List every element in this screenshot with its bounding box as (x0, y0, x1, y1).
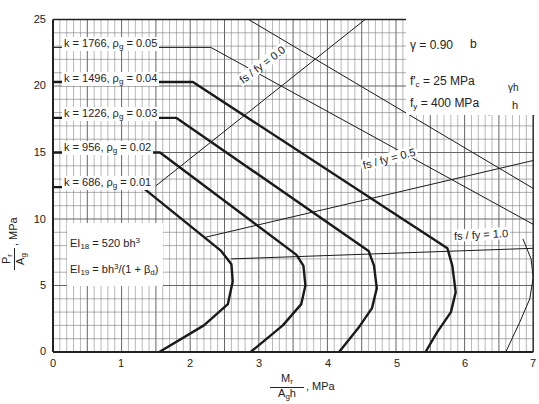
y-label-den-sub: g (19, 253, 28, 257)
x-tick: 6 (455, 357, 475, 369)
ei-text: /(1 + β (119, 263, 151, 275)
rho-text: = 0.04 (123, 72, 157, 84)
rho-text: = 0.02 (117, 141, 151, 153)
curve-label-k686: k = 686, ρg = 0.01 (62, 176, 153, 190)
x-tick: 3 (249, 357, 269, 369)
y-tick: 0 (26, 345, 46, 357)
ei-text: ) (155, 263, 159, 275)
y-label-sub: r (5, 254, 14, 257)
dim-gamma-h-label: γh (508, 82, 519, 93)
x-label-numerator: M (281, 372, 290, 384)
x-tick: 2 (180, 357, 200, 369)
series-line (53, 82, 456, 352)
k-text: k = 1496, ρ (64, 72, 119, 84)
fc-label: f′c = 25 MPa (410, 74, 475, 89)
ei-text: EI (70, 237, 80, 249)
curve-label-k1226: k = 1226, ρg = 0.03 (62, 107, 159, 121)
y-label-unit: , MPa (7, 217, 19, 246)
k-text: k = 686, ρ (64, 176, 113, 188)
curve-label-k1766: k = 1766, ρg = 0.05 (62, 37, 159, 51)
ei-text: = bh (89, 263, 114, 275)
fy-label: fy = 400 MPa (410, 96, 479, 111)
y-tick: 20 (26, 79, 46, 91)
x-label-unit: , MPa (306, 380, 335, 392)
fy-value: = 400 MPa (417, 96, 479, 110)
y-tick: 25 (26, 13, 46, 25)
x-tick: 0 (43, 357, 63, 369)
curve-label-k1496: k = 1496, ρg = 0.04 (62, 72, 159, 86)
rho-text: = 0.05 (123, 37, 157, 49)
y-label-numerator: P (0, 257, 12, 264)
series-line (156, 20, 365, 186)
y-tick: 15 (26, 146, 46, 158)
dim-b-label: b (470, 37, 477, 51)
x-tick: 7 (523, 357, 539, 369)
ei-sub: 18 (80, 242, 89, 251)
dim-h-label: h (512, 99, 518, 111)
x-tick: 1 (111, 357, 131, 369)
ei18-formula: EI18 = 520 bh3 (70, 236, 140, 251)
curve-label-k956: k = 956, ρg = 0.02 (62, 141, 153, 155)
x-tick: 4 (318, 357, 338, 369)
k-text: k = 956, ρ (64, 141, 113, 153)
y-tick: 5 (26, 279, 46, 291)
y-label-denominator: A (14, 258, 26, 265)
gamma-label: γ = 0.90 (410, 38, 453, 52)
k-text: k = 1226, ρ (64, 107, 119, 119)
ei-sup: 3 (136, 236, 140, 245)
x-label-sub: r (290, 377, 293, 386)
ei-sub: 19 (80, 268, 89, 277)
x-tick: 5 (387, 357, 407, 369)
ei-text: EI (70, 263, 80, 275)
k-text: k = 1766, ρ (64, 37, 119, 49)
fc-value: = 25 MPa (420, 74, 475, 88)
ei-text: = 520 bh (89, 237, 135, 249)
ei19-formula: EI19 = bh3/(1 + βd) (70, 262, 158, 277)
x-label-den-h: h (290, 387, 296, 399)
y-axis-label: Pr Ag , MPa (0, 180, 30, 270)
rho-text: = 0.03 (123, 107, 157, 119)
rho-text: = 0.01 (117, 176, 151, 188)
